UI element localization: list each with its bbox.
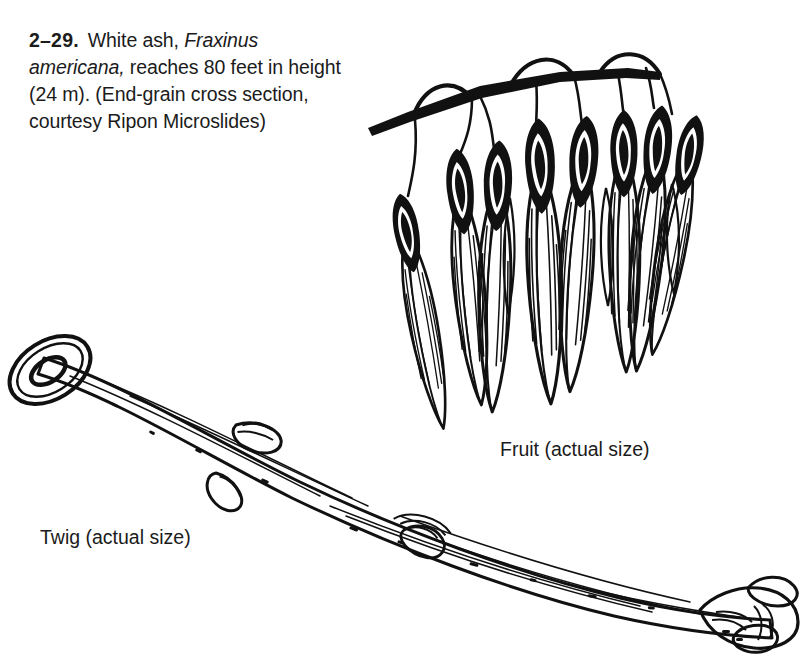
twig-label: Twig (actual size) [40, 525, 191, 549]
twig-cut-end-cross-section [0, 322, 103, 418]
figure-number: 2–29. [29, 29, 79, 51]
caption-text-part-1: White ash, [88, 29, 179, 51]
twig-lenticels [111, 402, 655, 610]
twig-body [38, 358, 772, 638]
figure-page: 2–29.White ash, Fraxinus americana, reac… [0, 0, 811, 665]
ash-twig-illustration [0, 330, 811, 650]
figure-caption: 2–29.White ash, Fraxinus americana, reac… [29, 27, 359, 135]
twig-lateral-bud-lower [201, 467, 247, 517]
